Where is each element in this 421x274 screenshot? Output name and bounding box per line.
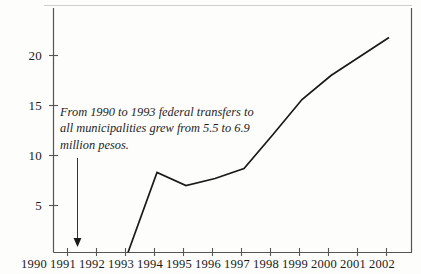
annotation-line-2: all municipalities grew from 5.5 to 6.9 (60, 120, 275, 136)
x-axis-label-2002: 2002 (362, 258, 402, 271)
chart-annotation-text: From 1990 to 1993 federal transfers to a… (60, 104, 275, 153)
annotation-line-3: million pesos. (60, 137, 275, 153)
y-axis-label-15: 15 (8, 99, 42, 112)
annotation-line-1: From 1990 to 1993 federal transfers to (60, 104, 275, 120)
chart-figure: 20 15 10 5 1990 1991 1992 1993 1994 1995… (0, 0, 421, 274)
y-axis-label-10: 10 (8, 149, 42, 162)
annotation-arrow (74, 158, 82, 247)
y-axis-label-5: 5 (8, 199, 42, 212)
y-axis-label-20: 20 (8, 49, 42, 62)
